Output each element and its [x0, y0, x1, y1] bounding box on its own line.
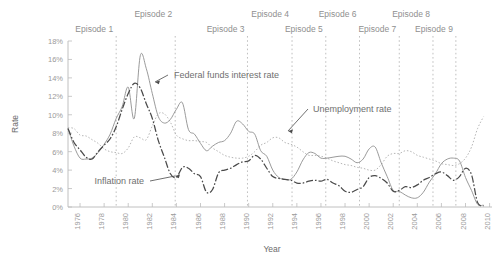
rate-line-chart: 0%2%4%6%8%10%12%14%16%18% 19761978198019…	[0, 0, 502, 263]
y-tick-label-10: 10%	[48, 111, 63, 120]
annotation-unemployment-rate-leader	[288, 109, 308, 131]
x-tick-label-1990: 1990	[242, 213, 251, 230]
y-tick-label-8: 8%	[52, 129, 63, 138]
x-tick-label-2004: 2004	[410, 213, 419, 230]
y-tick-label-12: 12%	[48, 92, 63, 101]
episode-label-2: Episode 2	[134, 9, 172, 19]
chart-container: 0%2%4%6%8%10%12%14%16%18% 19761978198019…	[0, 0, 502, 263]
x-tick-label-2010: 2010	[483, 213, 492, 230]
x-tick-label-1996: 1996	[314, 213, 323, 230]
episode-labels-group: Episode 1Episode 2Episode 3Episode 4Epis…	[75, 9, 453, 34]
x-tick-label-1982: 1982	[145, 213, 154, 230]
y-tick-label-18: 18%	[48, 37, 63, 46]
episode-label-8: Episode 8	[392, 9, 430, 19]
x-tick-label-1986: 1986	[194, 213, 203, 230]
episode-gridlines-group	[116, 36, 456, 207]
episode-label-3: Episode 3	[207, 24, 245, 34]
x-tick-label-1978: 1978	[97, 213, 106, 230]
y-tick-label-16: 16%	[48, 55, 63, 64]
x-tick-label-2000: 2000	[362, 213, 371, 230]
annotation-inflation-rate-leader	[150, 176, 175, 181]
x-axis-title: Year	[263, 244, 280, 254]
x-tick-label-1976: 1976	[73, 213, 82, 230]
y-axis-title: Rate	[10, 115, 20, 133]
episode-label-1: Episode 1	[75, 24, 113, 34]
y-tick-label-14: 14%	[48, 74, 63, 83]
x-tick-label-1984: 1984	[169, 213, 178, 230]
episode-label-6: Episode 6	[319, 9, 357, 19]
y-tick-label-0: 0%	[52, 203, 63, 212]
episode-label-7: Episode 7	[358, 24, 396, 34]
annotation-unemployment-rate: Unemployment rate	[313, 104, 392, 114]
episode-label-5: Episode 5	[285, 24, 323, 34]
annotation-federal-funds-interest-rate-leader	[155, 75, 168, 82]
episode-label-9: Episode 9	[415, 24, 453, 34]
y-tick-label-2: 2%	[52, 185, 63, 194]
x-tick-label-2002: 2002	[386, 213, 395, 230]
x-tick-label-2006: 2006	[434, 213, 443, 230]
x-tick-label-1992: 1992	[266, 213, 275, 230]
annotation-inflation-rate-arrow-icon	[175, 175, 180, 179]
annotation-inflation-rate: Inflation rate	[94, 176, 144, 186]
x-tick-label-1998: 1998	[338, 213, 347, 230]
y-tick-label-4: 4%	[52, 166, 63, 175]
series-annotations-group: Federal funds interest rateUnemployment …	[94, 70, 391, 186]
episode-label-4: Episode 4	[251, 9, 289, 19]
y-tick-label-6: 6%	[52, 148, 63, 157]
annotation-federal-funds-interest-rate: Federal funds interest rate	[174, 70, 279, 80]
x-tick-label-1994: 1994	[290, 213, 299, 230]
x-tick-label-1988: 1988	[218, 213, 227, 230]
series-line-unemployment-rate	[68, 113, 484, 171]
x-tick-label-1980: 1980	[121, 213, 130, 230]
x-tick-label-2008: 2008	[459, 213, 468, 230]
annotation-federal-funds-interest-rate-arrow-icon	[155, 81, 160, 85]
